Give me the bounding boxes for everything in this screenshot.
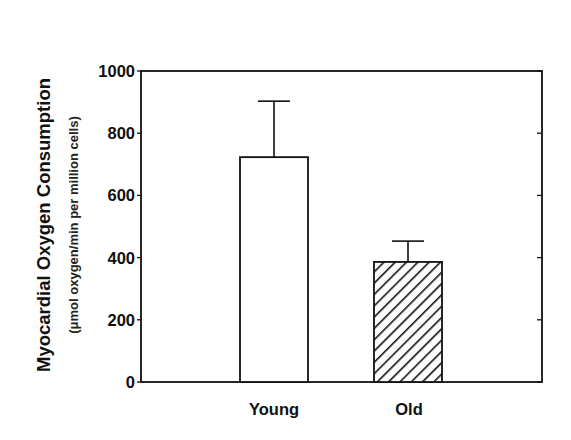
axis-ticks [137, 71, 542, 382]
bars [240, 157, 442, 382]
plot-area [0, 0, 571, 440]
bar-young [240, 157, 308, 382]
axes-box [141, 71, 542, 382]
bar-old [374, 262, 442, 382]
plot-frame [141, 71, 542, 382]
